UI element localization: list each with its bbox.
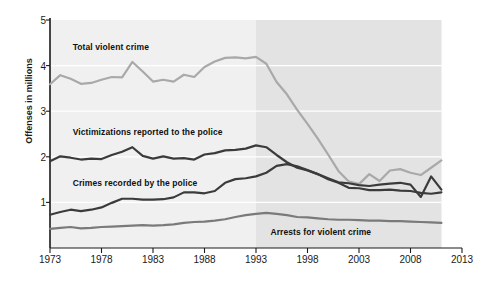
series-label-total-violent-crime: Total violent crime xyxy=(73,42,149,52)
series-label-victimizations-reported-to-the-police: Victimizations reported to the police xyxy=(73,127,223,137)
series-label-crimes-recorded-by-the-police: Crimes recorded by the police xyxy=(73,178,198,188)
series-label-arrests-for-violent-crime: Arrests for violent crime xyxy=(270,227,371,237)
violent-crime-line-chart: Offenses in millions 12345 1973197819831… xyxy=(0,0,496,287)
